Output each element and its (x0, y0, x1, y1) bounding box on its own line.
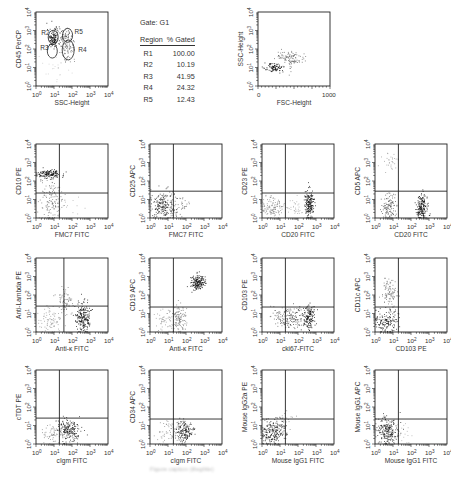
plot-cd11c-vs-cd103: 100101102103104100101102103104CD103 PECD… (339, 250, 451, 375)
scatter-plot: 100101102103104100101102103104Mouse IgG1… (339, 362, 451, 480)
svg-text:101: 101 (50, 223, 60, 231)
svg-text:100: 100 (371, 223, 381, 231)
svg-text:102: 102 (251, 402, 259, 412)
svg-text:100: 100 (371, 337, 381, 345)
svg-text:100: 100 (371, 449, 381, 457)
scatter-plot: 100101102103104100101102103104Anti-κ FIT… (0, 250, 112, 375)
svg-text:104: 104 (251, 253, 259, 263)
y-axis-label: cTDT PE (15, 393, 22, 420)
svg-text:101: 101 (276, 223, 286, 231)
scatter-plot: 100101102103104100101102103104Anti-κ FIT… (114, 250, 226, 375)
svg-text:102: 102 (294, 449, 304, 457)
svg-text:103: 103 (25, 26, 33, 36)
x-axis-label: Mouse IgG1 FITC (385, 457, 438, 465)
svg-text:103: 103 (86, 337, 96, 345)
scatter-plot: R2R3R4R5100101102103104100101102103104SS… (0, 4, 112, 129)
svg-text:100: 100 (258, 337, 268, 345)
svg-text:103: 103 (312, 337, 322, 345)
svg-text:104: 104 (104, 449, 114, 457)
svg-text:101: 101 (389, 223, 399, 231)
svg-text:103: 103 (200, 223, 210, 231)
svg-text:102: 102 (247, 44, 255, 54)
plot-cd23-vs-cd20: 100101102103104100101102103104CD20 FITCC… (226, 136, 338, 261)
svg-text:104: 104 (104, 223, 114, 231)
plot-cd19-vs-kappa: 100101102103104100101102103104Anti-κ FIT… (114, 250, 226, 375)
svg-text:101: 101 (50, 449, 60, 457)
x-axis-label: Anti-κ FITC (169, 345, 203, 352)
svg-text:103: 103 (364, 158, 372, 168)
gate-title: Gate: G1 (140, 18, 195, 27)
x-axis-label: cki67-FITC (282, 345, 314, 352)
svg-text:104: 104 (25, 253, 33, 263)
svg-text:102: 102 (251, 290, 259, 300)
svg-text:103: 103 (86, 449, 96, 457)
svg-text:103: 103 (251, 158, 259, 168)
svg-text:101: 101 (389, 449, 399, 457)
plot-cd10-vs-fmc7: 100101102103104100101102103104FMC7 FITCC… (0, 136, 112, 261)
plot-cd5-vs-cd20: 100101102103104100101102103104CD20 FITCC… (339, 136, 451, 261)
svg-text:100: 100 (139, 213, 147, 223)
y-axis-label: Anti-Lambda PE (15, 270, 22, 319)
svg-text:103: 103 (251, 272, 259, 282)
svg-text:103: 103 (364, 384, 372, 394)
scatter-plot: 100101102103104100101102103104cIgm FITCc… (0, 362, 112, 480)
svg-text:104: 104 (443, 337, 451, 345)
svg-text:101: 101 (25, 421, 33, 431)
scatter-plot: 100101102103104100101102103104FMC7 FITCC… (114, 136, 226, 261)
y-axis-label: CD5 APC (354, 167, 361, 195)
svg-text:101: 101 (164, 449, 174, 457)
svg-text:101: 101 (139, 421, 147, 431)
scatter-plot: 100101102103104100101102103104CD103 PECD… (339, 250, 451, 375)
svg-text:102: 102 (251, 176, 259, 186)
plot-ssc-vs-fsc: 10010110210310401000FSC-HeightSSC-Height (222, 4, 334, 129)
svg-text:104: 104 (364, 253, 372, 263)
svg-text:102: 102 (364, 176, 372, 186)
svg-text:101: 101 (50, 91, 60, 99)
svg-text:102: 102 (25, 290, 33, 300)
svg-text:103: 103 (139, 272, 147, 282)
table-row: R512.43 (140, 92, 195, 104)
svg-text:104: 104 (247, 7, 255, 17)
svg-text:102: 102 (139, 402, 147, 412)
svg-text:104: 104 (251, 365, 259, 375)
y-axis-label: SSC-Height (237, 31, 245, 66)
svg-text:101: 101 (164, 337, 174, 345)
x-axis-label: cIgm FITC (57, 457, 88, 465)
svg-text:102: 102 (139, 176, 147, 186)
svg-text:103: 103 (312, 223, 322, 231)
svg-text:100: 100 (251, 213, 259, 223)
table-row: R424.32 (140, 81, 195, 93)
svg-text:100: 100 (25, 213, 33, 223)
svg-text:100: 100 (25, 327, 33, 337)
svg-text:102: 102 (182, 337, 192, 345)
y-axis-label: CD34 APC (129, 391, 136, 423)
svg-text:104: 104 (139, 253, 147, 263)
col-region: Region (140, 35, 167, 46)
svg-text:102: 102 (68, 223, 78, 231)
svg-text:102: 102 (294, 337, 304, 345)
figure-caption: Figure caption (illegible) (150, 466, 330, 474)
svg-text:102: 102 (364, 402, 372, 412)
svg-text:102: 102 (25, 176, 33, 186)
svg-text:100: 100 (258, 223, 268, 231)
plot-cd25-vs-fmc7: 100101102103104100101102103104FMC7 FITCC… (114, 136, 226, 261)
svg-text:102: 102 (25, 402, 33, 412)
svg-text:103: 103 (251, 384, 259, 394)
table-row: R341.95 (140, 69, 195, 81)
svg-text:100: 100 (25, 439, 33, 449)
svg-text:101: 101 (251, 309, 259, 319)
y-axis-label: CD11c APC (354, 277, 361, 312)
y-axis-label: CD45 PerCP (15, 29, 22, 68)
plot-igg1-isotype: 100101102103104100101102103104Mouse IgG1… (339, 362, 451, 480)
svg-text:0: 0 (257, 91, 261, 98)
x-axis-label: CD103 PE (395, 345, 427, 352)
svg-text:101: 101 (50, 337, 60, 345)
x-axis-label: CD20 FITC (394, 231, 428, 238)
svg-text:104: 104 (104, 91, 114, 99)
svg-text:102: 102 (68, 91, 78, 99)
svg-text:103: 103 (364, 272, 372, 282)
y-axis-label: CD23 PE (241, 167, 248, 195)
svg-text:104: 104 (104, 337, 114, 345)
x-axis-label: SSC-Height (55, 99, 90, 107)
svg-text:104: 104 (25, 365, 33, 375)
